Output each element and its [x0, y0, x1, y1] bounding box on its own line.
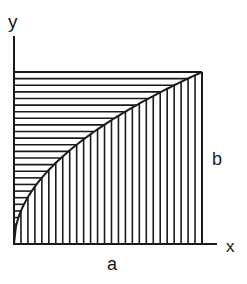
hatching	[14, 75, 195, 244]
width-label-a: a	[107, 254, 118, 274]
y-axis-label: y	[8, 11, 18, 32]
area-diagram: y x a b	[0, 0, 247, 284]
x-axis-label: x	[226, 237, 235, 256]
height-label-b: b	[212, 149, 222, 169]
